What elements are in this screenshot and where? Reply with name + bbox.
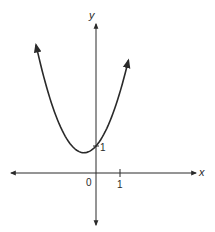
origin-label: 0: [86, 177, 92, 188]
y-axis-label: y: [88, 9, 96, 21]
parabola-curve: [36, 45, 128, 153]
x-tick-1-label: 1: [117, 179, 123, 190]
x-axis-label: x: [198, 166, 205, 178]
chart-canvas: y x 0 1 1: [0, 0, 215, 232]
y-tick-1-label: 1: [100, 142, 106, 153]
